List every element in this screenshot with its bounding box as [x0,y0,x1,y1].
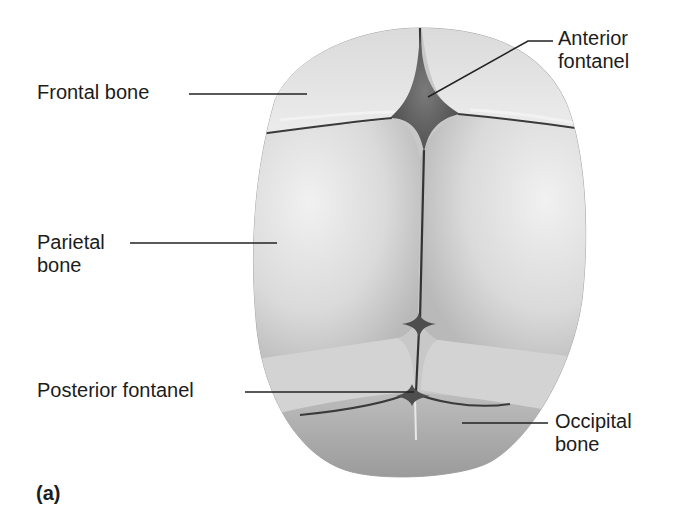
label-anterior-fontanel: Anterior fontanel [558,27,629,73]
fetal-skull-diagram: Frontal bone Anterior fontanel Parietal … [0,0,694,509]
label-occipital-bone: Occipital bone [555,410,632,456]
occipital-bone [250,392,600,509]
parietal-bone [250,114,600,420]
panel-label: (a) [36,482,60,505]
label-posterior-fontanel: Posterior fontanel [37,379,194,402]
label-parietal-bone: Parietal bone [37,231,105,277]
label-frontal-bone: Frontal bone [37,81,149,104]
